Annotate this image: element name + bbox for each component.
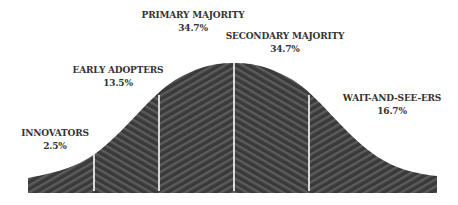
label-innovators-pct: 2.5%	[21, 140, 89, 153]
label-secondary-majority: SECONDARY MAJORITY 34.7%	[226, 30, 344, 56]
label-early-adopters: EARLY ADOPTERS 13.5%	[73, 64, 164, 90]
label-early-adopters-pct: 13.5%	[73, 77, 164, 90]
label-secondary-majority-pct: 34.7%	[226, 43, 344, 56]
label-primary-majority-name: PRIMARY MAJORITY	[142, 10, 245, 20]
label-innovators-name: INNOVATORS	[21, 128, 89, 138]
label-wait-and-see-ers-pct: 16.7%	[343, 105, 441, 118]
label-early-adopters-name: EARLY ADOPTERS	[73, 65, 164, 75]
label-secondary-majority-name: SECONDARY MAJORITY	[226, 31, 344, 41]
label-wait-and-see-ers-name: WAIT-AND-SEE-ERS	[343, 93, 441, 103]
segment-innovators	[0, 0, 94, 205]
label-wait-and-see-ers: WAIT-AND-SEE-ERS 16.7%	[343, 92, 441, 118]
label-innovators: INNOVATORS 2.5%	[21, 127, 89, 153]
